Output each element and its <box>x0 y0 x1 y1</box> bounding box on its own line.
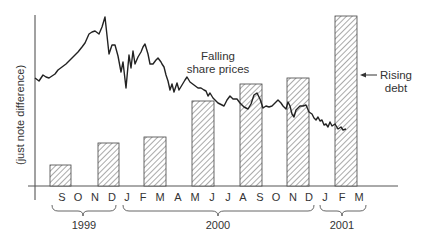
month-label: D <box>305 191 313 203</box>
month-label: D <box>108 191 116 203</box>
falling-label-line2: share prices <box>187 63 250 75</box>
month-label: N <box>289 191 297 203</box>
month-label: M <box>354 191 363 203</box>
rising-label-line2: debt <box>385 82 408 94</box>
month-label: O <box>272 191 281 203</box>
month-label: A <box>174 191 182 203</box>
bar-feb-2001 <box>335 16 357 186</box>
rising-debt-arrow-icon <box>360 73 377 78</box>
month-label: J <box>209 191 215 203</box>
month-label: J <box>322 191 328 203</box>
rising-label-line1: Rising <box>380 69 412 81</box>
chart-canvas: (just note difference) Falling share pri… <box>0 0 423 244</box>
month-label: O <box>74 191 83 203</box>
month-label: M <box>190 191 199 203</box>
falling-label-line1: Falling <box>201 50 235 62</box>
year-label-2001: 2001 <box>330 219 354 231</box>
bar-dec-2000 <box>287 78 309 186</box>
bar-jun-2000 <box>192 101 214 186</box>
bar-dec-1999 <box>98 143 119 186</box>
year-label-1999: 1999 <box>72 219 96 231</box>
bar-sep-2000 <box>240 84 262 186</box>
debt-bars <box>50 16 357 186</box>
bar-sep-1999 <box>50 165 71 186</box>
brace-1999 <box>52 205 116 216</box>
month-label: F <box>339 191 346 203</box>
y-axis-label: (just note difference) <box>14 65 26 165</box>
brace-2001 <box>320 205 366 216</box>
month-labels: S O N D J F M A M J J A S O N D J F M <box>58 191 363 203</box>
month-label: S <box>256 191 263 203</box>
month-label: M <box>155 191 164 203</box>
bar-mar-2000 <box>144 137 166 186</box>
month-label: J <box>225 191 231 203</box>
year-label-2000: 2000 <box>206 219 230 231</box>
month-label: F <box>140 191 147 203</box>
month-label: S <box>58 191 65 203</box>
brace-2000 <box>123 205 314 216</box>
month-label: A <box>239 191 247 203</box>
month-label: J <box>124 191 130 203</box>
month-label: N <box>91 191 99 203</box>
